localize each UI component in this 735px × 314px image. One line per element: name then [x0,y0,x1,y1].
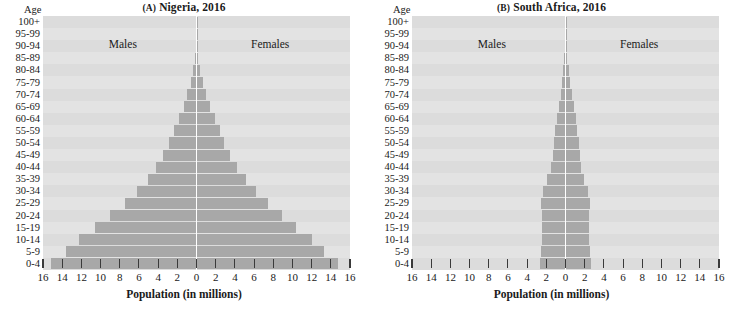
age-group-label: 0-4 [395,259,409,269]
age-group-label: 45-49 [385,150,410,160]
bar-male [184,101,197,112]
age-group-label: 20-24 [385,211,410,221]
legend-females-south-africa: Females [620,38,658,50]
x-axis-tick-labels-nigeria: 1614121086420246810121416 [43,271,350,285]
age-group-label: 30-34 [385,186,410,196]
bar-female [197,101,210,112]
age-group-label: 40-44 [385,162,410,172]
bar-male [163,150,196,161]
bar-female [197,137,225,148]
age-group-label: 15-19 [385,223,410,233]
bar-female [197,198,269,209]
age-axis-labels-south-africa: 100+95-9990-9485-8980-8475-7970-7465-696… [369,16,411,270]
x-axis-tick-label: 16 [38,271,49,283]
x-axis-tick-label: 14 [426,271,437,283]
bar-female [197,77,203,88]
bar-male [540,258,566,269]
bar-female [566,186,588,197]
bar-female [197,210,282,221]
age-group-label: 5-9 [395,247,409,257]
age-group-label: 90-94 [16,41,41,51]
x-axis-tick-label: 6 [251,271,257,283]
x-axis-tick-label: 6 [505,271,511,283]
x-axis-tick-label: 10 [95,271,106,283]
age-group-label: 85-89 [16,53,41,63]
x-axis-tick-label: 8 [117,271,123,283]
x-axis-tick-label: 0 [194,271,200,283]
x-axis-tick-label: 8 [486,271,492,283]
age-group-label: 35-39 [16,174,41,184]
bar-male [66,246,196,257]
age-group-label: 0-4 [26,259,40,269]
bar-female [566,174,585,185]
age-group-label: 65-69 [16,102,41,112]
bar-male [156,162,196,173]
age-group-label: 95-99 [385,29,410,39]
bar-male [542,210,566,221]
bar-male [179,113,197,124]
age-group-label: 100+ [387,17,409,27]
x-axis-tick-label: 16 [714,271,725,283]
panel-label-a: (A) [142,3,156,13]
x-axis-tick-label: 12 [445,271,456,283]
bar-female [197,113,215,124]
legend-males-nigeria: Males [109,38,137,50]
x-axis-title-nigeria: Population (in millions) [0,288,368,300]
plot-area-south-africa: Males Females [412,16,719,270]
age-axis-title-nigeria: Age [24,4,42,15]
age-group-label: 25-29 [16,198,41,208]
age-group-label: 80-84 [385,65,410,75]
x-axis-tick-label: 10 [464,271,475,283]
panel-title-south-africa: (B) South Africa, 2016 [368,1,735,13]
bar-male [79,234,197,245]
x-axis-tick-label: 6 [620,271,626,283]
bar-male [148,174,197,185]
bar-male [553,150,566,161]
age-group-label: 35-39 [385,174,410,184]
bar-male [110,210,196,221]
age-group-label: 45-49 [16,150,41,160]
age-group-label: 85-89 [385,53,410,63]
age-group-label: 80-84 [16,65,41,75]
bar-female [197,125,220,136]
age-group-label: 70-74 [16,90,41,100]
x-axis-tick-label: 12 [76,271,87,283]
bar-female [566,162,582,173]
age-group-label: 55-59 [16,126,41,136]
age-group-label: 10-14 [385,235,410,245]
center-axis-line-nigeria [196,16,198,270]
bar-male [174,125,197,136]
plot-area-nigeria: Males Females [43,16,350,270]
x-axis-tick-label: 16 [407,271,418,283]
x-axis-tick-label: 2 [175,271,181,283]
bar-female [197,186,257,197]
x-axis-tick-label: 14 [325,271,336,283]
bar-male [542,234,566,245]
bar-female [566,89,573,100]
x-axis-tick-label: 6 [136,271,142,283]
panel-nigeria: (A) Nigeria, 2016 Age 100+95-9990-9485-8… [0,0,368,314]
age-group-label: 60-64 [16,114,41,124]
panel-title-text-nigeria: Nigeria, 2016 [159,1,225,13]
x-axis-tick-label: 14 [694,271,705,283]
age-group-label: 30-34 [16,186,41,196]
bar-female [566,113,576,124]
age-group-label: 15-19 [16,223,41,233]
age-group-label: 60-64 [385,114,410,124]
bar-female [566,210,590,221]
age-group-label: 10-14 [16,235,41,245]
bar-female [566,101,574,112]
bar-male [542,222,566,233]
age-group-label: 75-79 [385,78,410,88]
age-group-label: 90-94 [385,41,410,51]
age-group-label: 70-74 [385,90,410,100]
panel-title-nigeria: (A) Nigeria, 2016 [0,1,368,13]
bar-male [137,186,196,197]
bar-female [197,150,231,161]
bar-female [566,198,591,209]
age-group-label: 5-9 [26,247,40,257]
x-axis-tick-label: 10 [656,271,667,283]
bar-female [197,174,246,185]
x-axis-tick-label: 2 [544,271,550,283]
bar-male [51,258,197,269]
